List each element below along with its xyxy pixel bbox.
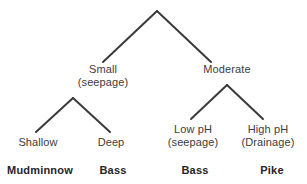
edge-small-to-deep [73, 98, 110, 132]
tree-edges-group [0, 0, 307, 184]
node-low-ph: Low pH (seepage) [155, 123, 231, 148]
node-small: Small (seepage) [63, 63, 143, 88]
node-low-ph-line1: Low pH [174, 123, 212, 135]
leaf-pike: Pike [237, 164, 307, 177]
node-high-ph-line2: (Drainage) [229, 136, 307, 149]
node-deep-line1: Deep [98, 136, 125, 148]
node-shallow: Shallow [0, 136, 76, 149]
node-small-line2: (seepage) [63, 76, 143, 89]
node-small-line1: Small [89, 63, 117, 75]
node-moderate: Moderate [187, 63, 267, 76]
node-high-ph: High pH (Drainage) [229, 123, 307, 148]
edge-root-to-moderate [157, 11, 211, 62]
leaf-mudminnow: Mudminnow [0, 164, 80, 177]
node-moderate-line1: Moderate [203, 63, 250, 75]
edge-small-to-shallow [36, 98, 73, 132]
node-low-ph-line2: (seepage) [155, 136, 231, 149]
node-shallow-line1: Shallow [18, 136, 57, 148]
edge-moderate-to-low-ph [191, 85, 227, 119]
edge-moderate-to-high-ph [227, 85, 263, 119]
leaf-bass-right: Bass [157, 164, 233, 177]
edge-root-to-small [103, 11, 157, 62]
decision-tree-diagram: Small (seepage) Moderate Shallow Deep Lo… [0, 0, 307, 184]
node-high-ph-line1: High pH [248, 123, 288, 135]
node-deep: Deep [78, 136, 144, 149]
leaf-bass-left: Bass [80, 164, 146, 177]
